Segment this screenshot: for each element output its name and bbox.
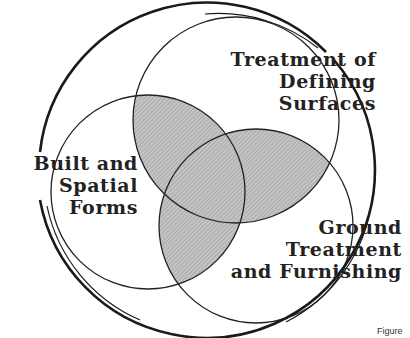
label-line: Surfaces [170,92,376,114]
label-built-and-spatial-forms: Built and Spatial Forms [6,152,138,218]
label-treatment-of-defining-surfaces: Treatment of Defining Surfaces [170,48,376,114]
label-ground-treatment-and-furnishing: Ground Treatment and Furnishing [206,216,402,282]
label-line: Ground [206,216,402,238]
label-line: and Furnishing [206,260,402,282]
label-line: Treatment [206,238,402,260]
figure-caption: Figure [377,326,403,336]
label-line: Forms [6,196,138,218]
label-line: Treatment of [170,48,376,70]
label-line: Spatial [6,174,138,196]
label-line: Defining [170,70,376,92]
label-line: Built and [6,152,138,174]
